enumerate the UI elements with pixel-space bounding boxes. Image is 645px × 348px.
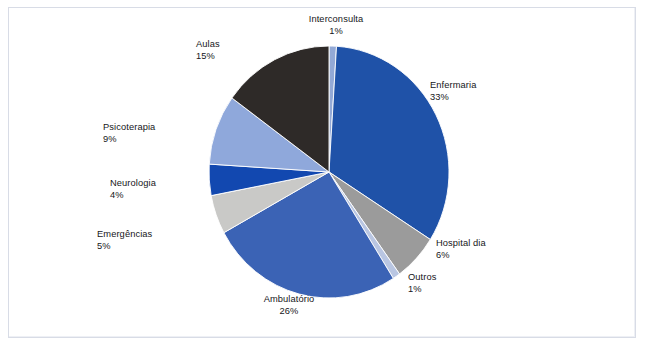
slice-label-aulas-name: Aulas [196,39,296,51]
slice-label-aulas: Aulas 15% [196,39,296,62]
pie-slice-group [209,46,449,298]
slice-label-psicoterapia: Psicoterapia 9% [103,122,223,145]
slice-label-emergencias-value: 5% [97,241,217,253]
slice-label-emergencias: Emergências 5% [97,229,217,252]
slice-label-enfermaria: Enfermaria 33% [430,80,540,103]
slice-label-psicoterapia-name: Psicoterapia [103,122,223,134]
slice-label-enfermaria-name: Enfermaria [430,80,540,92]
slice-label-neurologia: Neurologia 4% [110,178,220,201]
pie-chart-figure: Interconsulta 1% Enfermaria 33% Hospital… [0,0,645,348]
slice-label-hospital-dia-name: Hospital dia [436,238,546,250]
slice-label-psicoterapia-value: 9% [103,134,223,146]
slice-label-hospital-dia-value: 6% [436,250,546,262]
slice-label-interconsulta-name: Interconsulta [281,14,391,26]
slice-label-ambulatorio-value: 26% [214,306,364,318]
chart-plot-area: Interconsulta 1% Enfermaria 33% Hospital… [0,0,645,348]
slice-label-ambulatorio: Ambulatório 26% [214,294,364,317]
slice-label-interconsulta: Interconsulta 1% [281,14,391,37]
slice-label-outros: Outros 1% [408,272,498,295]
slice-label-outros-name: Outros [408,272,498,284]
slice-label-interconsulta-value: 1% [281,26,391,38]
slice-label-hospital-dia: Hospital dia 6% [436,238,546,261]
slice-label-aulas-value: 15% [196,51,296,63]
slice-label-emergencias-name: Emergências [97,229,217,241]
slice-label-outros-value: 1% [408,284,498,296]
slice-label-enfermaria-value: 33% [430,92,540,104]
slice-label-ambulatorio-name: Ambulatório [214,294,364,306]
slice-label-neurologia-value: 4% [110,190,220,202]
slice-label-neurologia-name: Neurologia [110,178,220,190]
